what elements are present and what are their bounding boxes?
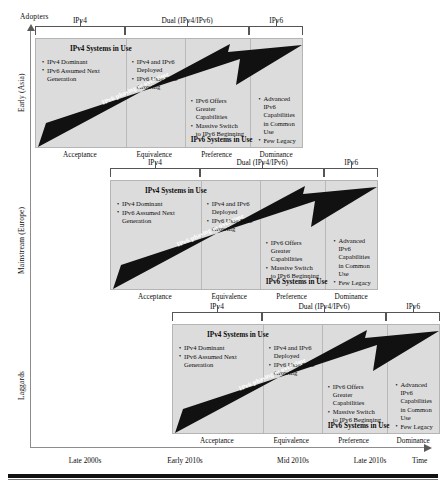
x-axis-title: Time <box>412 456 427 465</box>
adoption-panel: IPv4 Systems in Use IPv6 Systems in Use … <box>110 180 378 290</box>
y-axis-line <box>30 30 31 448</box>
brace-tick-ipv6 <box>351 162 352 169</box>
y-tick-laggards: Laggards <box>17 371 26 400</box>
x-tick-early-2010s: Early 2010s <box>145 456 225 465</box>
footer-rule-2 <box>8 479 438 480</box>
x-tick-late-2010s: Late 2010s <box>330 456 410 465</box>
bullet-item: Few Legacy IPv4 Systems Remain <box>395 423 437 434</box>
bullet-item: IPv4 and IPv6 Deployed <box>269 344 316 360</box>
brace-tick-dual <box>324 306 325 313</box>
brace-tick-ipv4 <box>155 162 156 169</box>
bullet-item: Massive Switch to IPv6 Beginning <box>266 264 320 280</box>
adoption-panel: IPv4 Systems in Use IPv6 Systems in Use … <box>172 324 440 434</box>
bullet-item: IPv6 Offers Greater Capabilities <box>328 383 382 408</box>
x-tick-mid-2010s: Mid 2010s <box>253 456 333 465</box>
bullets-acceptance: IPv4 DominantIPv6 Assumed Next Generatio… <box>179 344 257 370</box>
x-tick-late-2000s: Late 2000s <box>45 456 125 465</box>
bullet-item: IPv6 Assumed Next Generation <box>117 209 195 225</box>
adoption-block-0: IPv4 Dual (IPv4/IPv6) IPv6 IPv4 Systems … <box>35 16 303 162</box>
bullet-item: Few Legacy IPv4 Systems Remain <box>333 279 375 290</box>
stage-label-acceptance: Acceptance <box>177 437 257 445</box>
bullet-item: IPv6 Assumed Next Generation <box>179 353 257 369</box>
bullet-item: IPv6 Offers Greater Capabilities <box>191 97 245 122</box>
stage-label-acceptance: Acceptance <box>115 293 195 301</box>
bullet-item: IPv6 Offers Greater Capabilities <box>266 239 320 264</box>
brace-dual <box>262 312 387 321</box>
y-tick-early: Early (Asia) <box>17 73 26 112</box>
brace-tick-dual <box>187 20 188 27</box>
y-tick-mainstream: Mainstream (Europe) <box>17 207 26 274</box>
adoption-block-1: IPv4 Dual (IPv4/IPv6) IPv6 IPv4 Systems … <box>110 158 378 304</box>
panel-header-ipv4: IPv4 Systems in Use <box>70 45 132 53</box>
bullet-item: Massive Switch to IPv6 Beginning <box>328 408 382 424</box>
bullet-item: Advanced IPv6 Capabilities in Common Use <box>258 95 300 136</box>
bullet-item: Few Legacy IPv4 Systems Remain <box>258 137 300 148</box>
bullet-item: IPv6 Assumed Next Generation <box>42 67 120 83</box>
bullets-preference: IPv6 Offers Greater CapabilitiesMassive … <box>191 97 245 139</box>
brace-tick-dual <box>262 162 263 169</box>
brace-ipv6 <box>386 312 440 321</box>
brace-ipv4 <box>110 168 200 177</box>
y-axis-arrow-icon <box>27 24 35 31</box>
bullet-item: IPv4 and IPv6 Deployed <box>207 200 254 216</box>
bullets-acceptance: IPv4 DominantIPv6 Assumed Next Generatio… <box>117 200 195 226</box>
adoption-block-2: IPv4 Dual (IPv4/IPv6) IPv6 IPv4 Systems … <box>172 302 440 448</box>
adoption-panel: IPv4 Systems in Use IPv6 Systems in Use … <box>35 38 303 148</box>
phase-caption-ipv6: IPv6 <box>363 302 446 311</box>
bullets-dominance: Advanced IPv6 Capabilities in Common Use… <box>333 237 375 290</box>
brace-ipv6 <box>249 26 303 35</box>
stage-label-dominance: Dominance <box>373 437 446 445</box>
panel-header-ipv4: IPv4 Systems in Use <box>207 331 269 339</box>
bullets-acceptance: IPv4 DominantIPv6 Assumed Next Generatio… <box>42 58 120 84</box>
brace-tick-ipv6 <box>413 306 414 313</box>
bullet-item: IPv4 Dominant <box>117 200 195 208</box>
brace-ipv4 <box>172 312 262 321</box>
brace-tick-ipv4 <box>80 20 81 27</box>
footer-rule <box>8 474 438 478</box>
diagram-canvas: Adopters Time Early (Asia) Mainstream (E… <box>0 0 446 489</box>
stage-label-dominance: Dominance <box>311 293 391 301</box>
brace-tick-ipv4 <box>217 306 218 313</box>
bullet-item: IPv4 and IPv6 Deployed <box>132 58 179 74</box>
bullets-dominance: Advanced IPv6 Capabilities in Common Use… <box>395 381 437 434</box>
brace-dual <box>200 168 325 177</box>
panel-header-ipv4: IPv4 Systems in Use <box>145 187 207 195</box>
bullet-item: IPv4 Dominant <box>179 344 257 352</box>
bullet-item: IPv4 Dominant <box>42 58 120 66</box>
brace-tick-ipv6 <box>276 20 277 27</box>
brace-ipv6 <box>324 168 378 177</box>
brace-ipv4 <box>35 26 125 35</box>
bullets-dominance: Advanced IPv6 Capabilities in Common Use… <box>258 95 300 148</box>
bullet-item: Advanced IPv6 Capabilities in Common Use <box>395 381 437 422</box>
bullets-preference: IPv6 Offers Greater CapabilitiesMassive … <box>266 239 320 281</box>
bullets-preference: IPv6 Offers Greater CapabilitiesMassive … <box>328 383 382 425</box>
brace-dual <box>125 26 250 35</box>
bullet-item: Advanced IPv6 Capabilities in Common Use <box>333 237 375 278</box>
bullet-item: Massive Switch to IPv6 Beginning <box>191 122 245 138</box>
